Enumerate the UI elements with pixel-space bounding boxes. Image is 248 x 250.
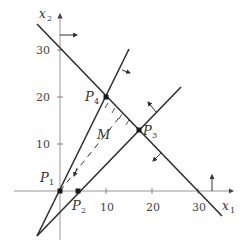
- svg-text:4: 4: [94, 97, 99, 106]
- point-p2: [76, 189, 81, 194]
- y-tick-label-30: 30: [36, 44, 50, 57]
- svg-text:P: P: [39, 170, 49, 185]
- x-tick-label-10: 10: [100, 201, 114, 214]
- constraint-line-sum: [37, 24, 222, 216]
- point-p3: [137, 128, 142, 133]
- svg-text:x: x: [39, 7, 46, 21]
- y-tick-label-20: 20: [36, 91, 50, 104]
- svg-text:P: P: [71, 198, 81, 213]
- region-label-m: M: [96, 127, 111, 142]
- label-p4: P 4: [84, 89, 99, 106]
- arrow-p2p3-icon: [148, 102, 156, 112]
- point-p4: [104, 95, 109, 100]
- svg-text:x: x: [222, 199, 229, 213]
- x-axis-label: x 1: [222, 199, 235, 215]
- y-axis-label: x 2: [39, 7, 52, 23]
- x-tick-label-30: 30: [192, 201, 206, 214]
- svg-text:P: P: [84, 89, 94, 104]
- point-p1: [58, 189, 63, 194]
- label-p1: P 1: [39, 170, 54, 187]
- svg-text:2: 2: [47, 14, 52, 23]
- x-tick-label-20: 20: [146, 201, 160, 214]
- svg-text:1: 1: [230, 206, 235, 215]
- svg-text:P: P: [142, 123, 152, 138]
- arrow-p1p4-icon: [122, 70, 130, 73]
- svg-text:2: 2: [81, 206, 86, 215]
- arrow-sum-icon: [153, 153, 161, 161]
- label-p3: P 3: [142, 123, 157, 140]
- y-tick-label-10: 10: [36, 138, 50, 151]
- svg-text:1: 1: [49, 178, 54, 187]
- svg-text:3: 3: [152, 131, 157, 140]
- lp-diagram: 10 20 30 10 20 30 x 1 x 2 P 1 P 2: [0, 0, 248, 250]
- arrow-inner-icon: [74, 168, 77, 176]
- label-p2: P 2: [71, 198, 86, 215]
